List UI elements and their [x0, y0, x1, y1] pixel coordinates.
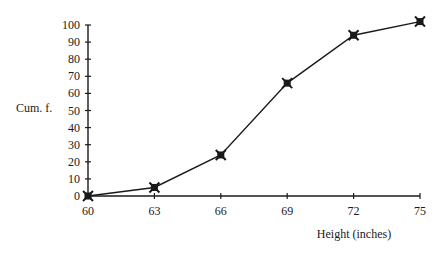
x-axis-title: Height (inches)	[317, 227, 391, 241]
y-tick-label: 20	[68, 155, 80, 169]
y-axis-title: Cum. f.	[16, 101, 52, 115]
data-point-marker	[149, 182, 159, 192]
x-axis: 606366697275	[82, 193, 426, 218]
cumulative-frequency-chart: 0102030405060708090100 606366697275 Cum.…	[0, 0, 443, 255]
data-point-marker	[349, 30, 359, 40]
x-tick-label: 75	[414, 204, 426, 218]
y-axis: 0102030405060708090100	[62, 18, 91, 203]
x-tick-label: 66	[215, 204, 227, 218]
y-tick-label: 30	[68, 138, 80, 152]
y-tick-label: 100	[62, 18, 80, 32]
data-point-marker	[216, 150, 226, 160]
y-tick-label: 60	[68, 86, 80, 100]
x-tick-label: 60	[82, 204, 94, 218]
series-line	[88, 22, 420, 196]
y-tick-label: 90	[68, 35, 80, 49]
data-series	[83, 17, 425, 201]
y-tick-label: 10	[68, 172, 80, 186]
data-point-marker	[415, 17, 425, 27]
y-tick-label: 40	[68, 121, 80, 135]
data-point-marker	[83, 191, 93, 201]
y-tick-label: 80	[68, 52, 80, 66]
data-point-marker	[282, 78, 292, 88]
x-tick-label: 69	[281, 204, 293, 218]
x-tick-label: 72	[348, 204, 360, 218]
y-tick-label: 70	[68, 69, 80, 83]
y-tick-label: 50	[68, 104, 80, 118]
y-tick-label: 0	[74, 189, 80, 203]
x-tick-label: 63	[148, 204, 160, 218]
